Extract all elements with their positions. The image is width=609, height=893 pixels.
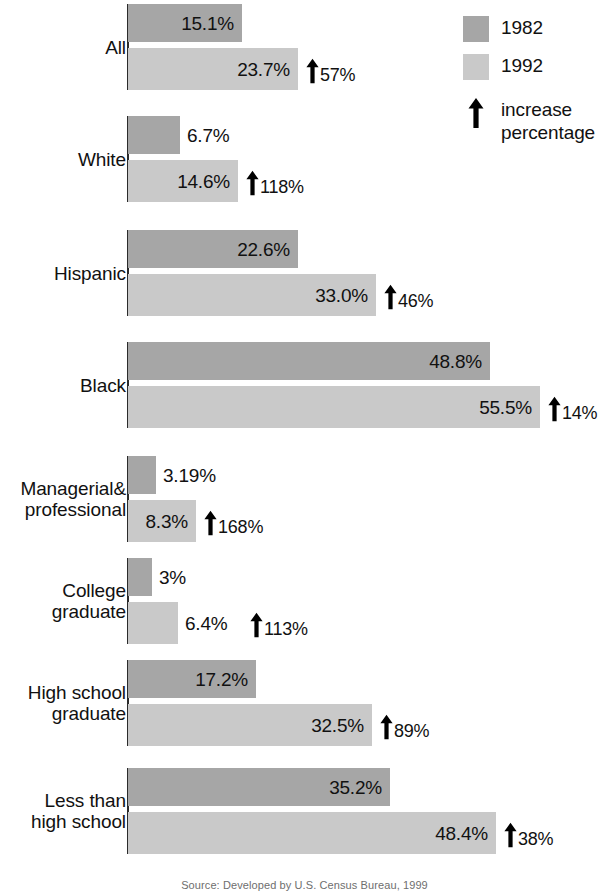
bar-value-1992: 6.4%: [185, 614, 228, 633]
bar-1982: 6.7%: [128, 116, 180, 154]
category-label: Hispanic: [0, 263, 126, 284]
increase-percentage-label: 118%: [260, 178, 304, 198]
legend-item-1992: 1992: [463, 54, 609, 80]
increase-annotation: 57%: [306, 54, 355, 86]
arrow-up-icon: [384, 283, 397, 309]
category-label: College graduate: [0, 580, 126, 622]
increase-percentage-label: 89%: [394, 722, 429, 742]
bar-1992: 23.7%: [128, 48, 298, 90]
increase-annotation: 118%: [246, 166, 304, 198]
legend-item-increase: increase percentage: [463, 98, 609, 144]
bar-value-1982: 17.2%: [195, 670, 248, 689]
chart-caption: Source: Developed by U.S. Census Bureau,…: [0, 878, 609, 893]
increase-percentage-label: 57%: [320, 66, 355, 86]
bar-value-1992: 8.3%: [145, 512, 188, 531]
bar-fill-1982: [128, 456, 156, 494]
legend-swatch-1982: [463, 16, 489, 42]
bar-value-1982: 6.7%: [187, 126, 230, 145]
bar-group: Less than high school35.2%48.4%38%: [0, 768, 609, 854]
bar-value-1992: 55.5%: [479, 398, 532, 417]
arrow-up-icon: [250, 611, 263, 637]
bar-1992: 55.5%: [128, 386, 540, 428]
bar-group: Hispanic22.6%33.0%46%: [0, 230, 609, 316]
bar-value-1982: 3.19%: [163, 466, 216, 485]
bar-fill-1982: [128, 558, 152, 596]
chart-legend: 1982 1992 increase percentage: [463, 16, 609, 156]
category-label: All: [0, 37, 126, 58]
bar-value-1982: 35.2%: [329, 778, 382, 797]
increase-annotation: 38%: [504, 818, 553, 850]
category-label: White: [0, 149, 126, 170]
bar-chart: All15.1%23.7%57%White6.7%14.6%118%Hispan…: [0, 0, 609, 893]
arrow-up-icon: [463, 98, 489, 128]
bar-group: College graduate3%6.4%113%: [0, 558, 609, 644]
bar-value-1982: 3%: [159, 568, 186, 587]
bar-1992: 14.6%: [128, 160, 238, 202]
legend-swatch-1992: [463, 54, 489, 80]
bar-1982: 35.2%: [128, 768, 390, 806]
arrow-up-icon: [306, 57, 319, 83]
bar-value-1992: 33.0%: [315, 286, 368, 305]
bar-1982: 3%: [128, 558, 152, 596]
bar-group: Black48.8%55.5%14%: [0, 342, 609, 428]
increase-annotation: 168%: [204, 506, 263, 538]
increase-annotation: 89%: [380, 710, 429, 742]
arrow-up-icon: [548, 395, 561, 421]
bar-value-1982: 15.1%: [181, 14, 234, 33]
bar-1992: 6.4%: [128, 602, 178, 644]
increase-percentage-label: 46%: [398, 292, 433, 312]
arrow-up-icon: [246, 169, 259, 195]
bar-value-1982: 48.8%: [429, 352, 482, 371]
bar-fill-1982: [128, 116, 180, 154]
bar-value-1992: 32.5%: [311, 716, 364, 735]
category-label: High school graduate: [0, 682, 126, 724]
legend-item-1982: 1982: [463, 16, 609, 42]
bar-value-1992: 14.6%: [177, 172, 230, 191]
bar-1982: 15.1%: [128, 4, 242, 42]
category-label: Less than high school: [0, 790, 126, 832]
increase-annotation: 113%: [250, 608, 308, 640]
increase-annotation: 14%: [548, 392, 597, 424]
arrow-up-icon: [204, 509, 217, 535]
increase-percentage-label: 113%: [264, 620, 308, 640]
bar-value-1992: 23.7%: [237, 60, 290, 79]
bar-1992: 8.3%: [128, 500, 196, 542]
bar-1992: 48.4%: [128, 812, 496, 854]
bar-1992: 32.5%: [128, 704, 372, 746]
increase-percentage-label: 14%: [562, 404, 597, 424]
increase-percentage-label: 168%: [218, 518, 263, 538]
bar-group: Managerial& professional3.19%8.3%168%: [0, 456, 609, 542]
bar-1982: 17.2%: [128, 660, 256, 698]
category-label: Black: [0, 375, 126, 396]
bar-group: High school graduate17.2%32.5%89%: [0, 660, 609, 746]
bar-1982: 22.6%: [128, 230, 298, 268]
legend-label-1992: 1992: [501, 54, 543, 77]
bar-1982: 3.19%: [128, 456, 156, 494]
increase-annotation: 46%: [384, 280, 433, 312]
legend-label-1982: 1982: [501, 16, 543, 39]
arrow-up-icon: [380, 713, 393, 739]
category-label: Managerial& professional: [0, 478, 126, 520]
bar-1992: 33.0%: [128, 274, 376, 316]
bar-value-1992: 48.4%: [435, 824, 488, 843]
arrow-up-icon: [504, 821, 517, 847]
bar-1982: 48.8%: [128, 342, 490, 380]
increase-percentage-label: 38%: [518, 830, 553, 850]
bar-fill-1992: [128, 602, 178, 644]
legend-label-increase: increase percentage: [501, 98, 595, 144]
bar-value-1982: 22.6%: [237, 240, 290, 259]
